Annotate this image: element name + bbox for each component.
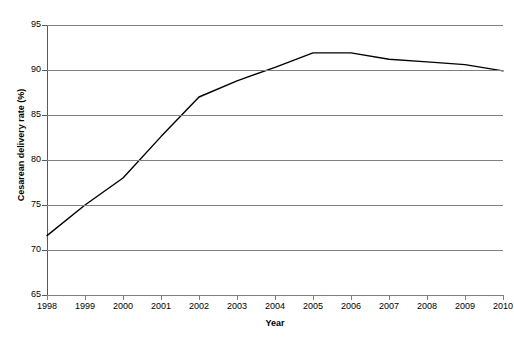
x-axis-tick-mark	[85, 295, 86, 300]
gridline	[47, 70, 503, 71]
gridline	[47, 25, 503, 26]
y-axis-tick-label: 95	[7, 20, 41, 29]
x-axis-tick-mark	[427, 295, 428, 300]
x-axis-tick-mark	[313, 295, 314, 300]
x-axis-tick-mark	[123, 295, 124, 300]
y-axis-tick-label: 70	[7, 245, 41, 254]
y-axis-tick-label: 80	[7, 155, 41, 164]
y-axis-tick-label: 65	[7, 290, 41, 299]
plot-area	[47, 25, 503, 295]
y-axis-tick-label: 90	[7, 65, 41, 74]
x-axis-tick-mark	[275, 295, 276, 300]
x-axis-tick-mark	[237, 295, 238, 300]
x-axis-tick-label: 2010	[481, 301, 514, 312]
gridline	[47, 160, 503, 161]
gridline	[47, 205, 503, 206]
y-axis-tick-label: 85	[7, 110, 41, 119]
y-axis-tick-labels: 65707580859095	[0, 25, 41, 295]
gridline	[47, 250, 503, 251]
y-axis-tick-label: 75	[7, 200, 41, 209]
x-axis-tick-mark	[161, 295, 162, 300]
x-axis-title: Year	[47, 318, 503, 328]
x-axis-tick-mark	[351, 295, 352, 300]
gridline	[47, 115, 503, 116]
x-axis-tick-mark	[47, 295, 48, 300]
x-axis-tick-labels: 1998199920002001200220032004200520062007…	[0, 301, 514, 315]
x-axis-tick-mark	[199, 295, 200, 300]
x-axis-tick-mark	[389, 295, 390, 300]
x-axis-tick-mark	[503, 295, 504, 300]
line-chart: Cesarean delivery rate (%) 6570758085909…	[0, 0, 514, 343]
x-axis-tick-mark	[465, 295, 466, 300]
